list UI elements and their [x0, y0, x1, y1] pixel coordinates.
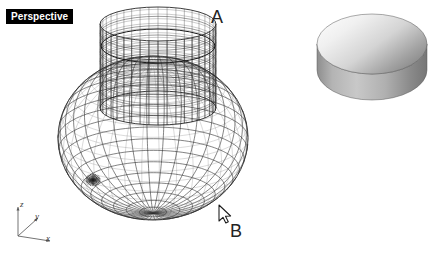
callout-label-a: A [211, 8, 223, 26]
disc-top-face [317, 14, 427, 74]
page-caption-clipped [0, 246, 442, 253]
scene-canvas[interactable] [0, 0, 442, 253]
viewport-title-label[interactable]: Perspective [6, 9, 73, 24]
callout-label-b: B [230, 222, 242, 240]
shaded-disc-solid[interactable] [317, 14, 427, 100]
world-axes-indicator [17, 207, 51, 242]
axis-label-z: z [20, 199, 24, 209]
axis-label-y: y [35, 211, 39, 221]
perspective-viewport[interactable]: Perspective A B z y x [0, 0, 442, 253]
arrow-pointer-icon [219, 205, 231, 223]
axis-label-x: x [46, 233, 50, 243]
